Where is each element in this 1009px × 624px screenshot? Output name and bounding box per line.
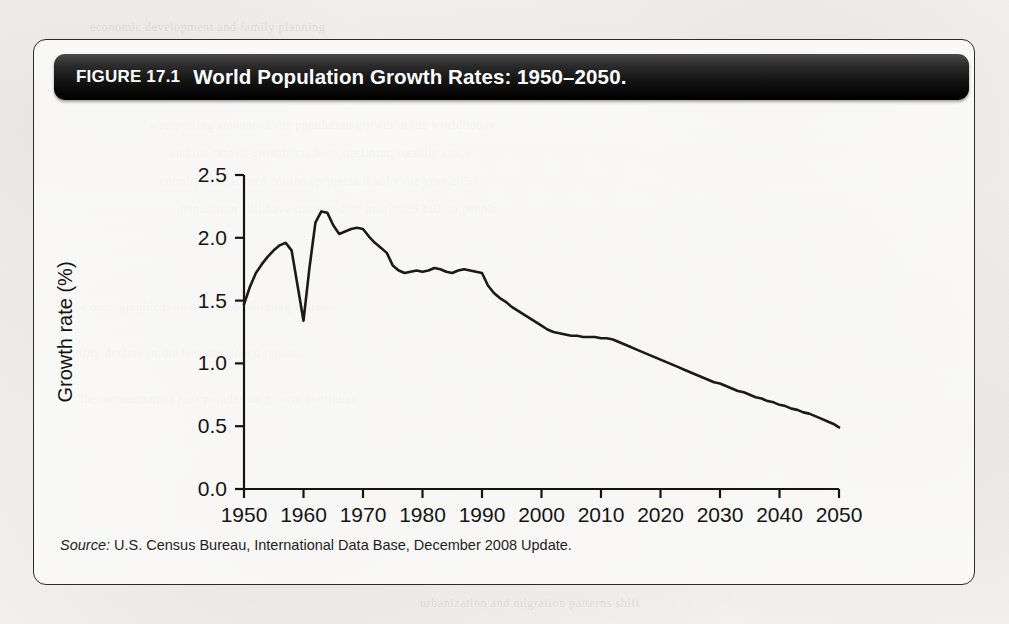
x-axis-tick-label: 1970 xyxy=(340,503,387,526)
x-axis-tick-label: 2040 xyxy=(756,503,803,526)
x-axis-ticks xyxy=(244,489,839,498)
y-axis-tick-labels: 0.00.51.01.52.02.5 xyxy=(198,163,227,500)
source-caption: Source: U.S. Census Bureau, Internationa… xyxy=(60,537,572,553)
figure-number-label: FIGURE 17.1 xyxy=(76,67,180,87)
growth-rate-line xyxy=(244,211,839,427)
figure-title-bar: FIGURE 17.1 World Population Growth Rate… xyxy=(54,54,969,100)
x-axis: 1950196019701980199020002010202020302040… xyxy=(221,489,863,530)
x-axis-tick-label: 2030 xyxy=(697,503,744,526)
x-axis-tick-label: 1960 xyxy=(280,503,327,526)
source-label: Source: xyxy=(60,537,110,553)
source-citation: U.S. Census Bureau, International Data B… xyxy=(110,537,572,553)
bleed-line: economic development and family planning xyxy=(90,20,325,35)
y-axis: 0.00.51.01.52.02.5 Growth rate (%) xyxy=(54,163,244,500)
chart-plot-area: 0.00.51.01.52.02.5 Growth rate (%) 19501… xyxy=(34,100,976,530)
bleed-line: urbanization and migration patterns shif… xyxy=(420,596,640,611)
y-axis-tick-label: 0.5 xyxy=(198,414,227,437)
y-axis-tick-label: 2.0 xyxy=(198,226,227,249)
x-axis-tick-labels: 1950196019701980199020002010202020302040… xyxy=(221,503,863,526)
y-axis-tick-label: 1.0 xyxy=(198,351,227,374)
y-axis-ticks xyxy=(235,175,244,489)
figure-title: World Population Growth Rates: 1950–2050… xyxy=(193,65,626,89)
y-axis-tick-label: 0.0 xyxy=(198,477,227,500)
figure-frame: FIGURE 17.1 World Population Growth Rate… xyxy=(33,39,975,585)
x-axis-tick-label: 2020 xyxy=(637,503,684,526)
x-axis-tick-label: 2050 xyxy=(816,503,863,526)
y-axis-tick-label: 1.5 xyxy=(198,289,227,312)
y-axis-tick-label: 2.5 xyxy=(198,163,227,186)
x-axis-tick-label: 1990 xyxy=(459,503,506,526)
x-axis-tick-label: 1950 xyxy=(221,503,268,526)
x-axis-tick-label: 2000 xyxy=(518,503,565,526)
y-axis-title: Growth rate (%) xyxy=(54,261,76,402)
line-chart: 0.00.51.01.52.02.5 Growth rate (%) 19501… xyxy=(34,100,976,530)
x-axis-tick-label: 2010 xyxy=(578,503,625,526)
x-axis-tick-label: 1980 xyxy=(399,503,446,526)
